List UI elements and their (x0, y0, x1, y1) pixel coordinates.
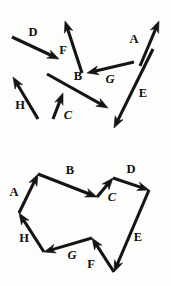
vector-label-f: F (87, 257, 95, 271)
polygon-vector-group: ABCDEFGH (9, 162, 149, 272)
vector-shaft-e (117, 49, 153, 121)
vector-label-b: B (66, 163, 74, 177)
vector-label-a: A (9, 185, 18, 199)
vector-label-a: A (129, 32, 138, 46)
vector-label-d: D (126, 162, 135, 176)
vector-shaft-d (12, 37, 52, 56)
vector-label-c: C (108, 190, 117, 204)
vector-shaft-c (97, 184, 108, 197)
vector-label-e: E (139, 86, 147, 100)
vector-shaft-f (67, 28, 82, 73)
vector-shaft-f (96, 244, 114, 272)
vector-shaft-a (19, 181, 35, 213)
vector-shaft-b (38, 174, 90, 194)
vector-label-c: C (64, 108, 73, 122)
panel-scattered-vectors: ABCDEFGH (0, 0, 171, 143)
vector-figure: ABCDEFGH ABCDEFGH (0, 0, 171, 286)
panel-polygon-head-to-tail: ABCDEFGH (0, 143, 171, 286)
vector-label-d: D (28, 25, 37, 39)
vector-shaft-e (117, 190, 149, 265)
vector-label-h: H (19, 231, 29, 245)
vector-shaft-g (94, 62, 134, 71)
vector-label-e: E (134, 230, 142, 244)
vector-label-g: G (67, 248, 76, 262)
vector-label-f: F (59, 43, 67, 57)
vector-shaft-d (113, 178, 142, 188)
vector-shaft-c (53, 100, 60, 119)
vector-label-g: G (105, 72, 114, 86)
vector-label-h: H (15, 98, 25, 112)
scattered-vector-group: ABCDEFGH (12, 21, 159, 128)
